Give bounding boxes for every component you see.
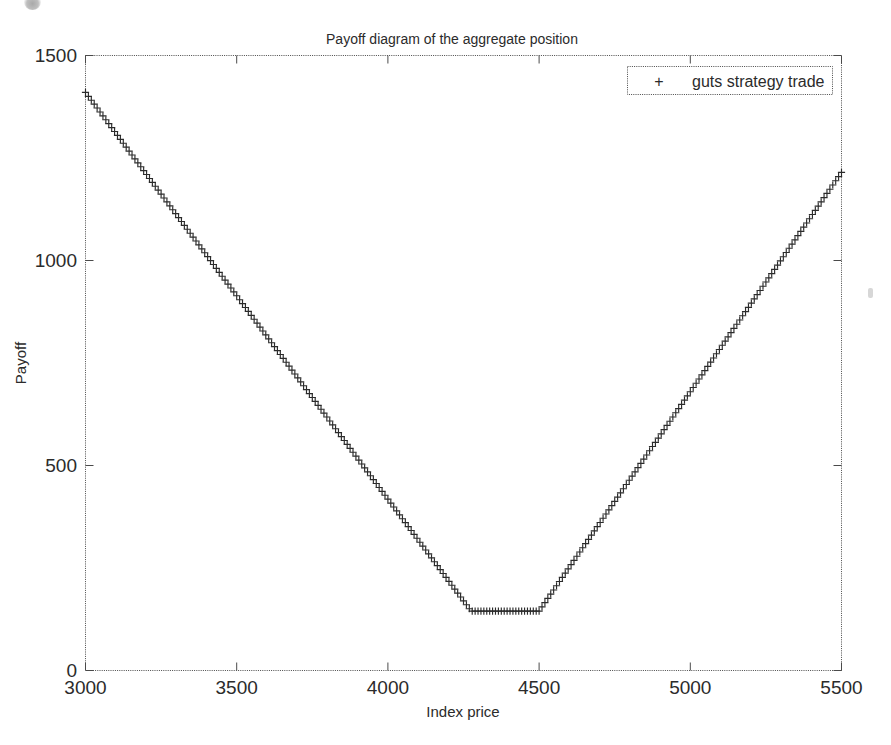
x-tick-label: 4000: [367, 677, 409, 698]
y-axis-ticks: [86, 56, 842, 671]
x-tick-labels: 3000 3500 4000 4500 5000 5500: [64, 677, 862, 698]
x-tick-label: 5000: [669, 677, 711, 698]
legend[interactable]: + guts strategy trade: [628, 67, 833, 95]
x-tick-label: 4500: [518, 677, 560, 698]
y-tick-label: 1000: [35, 250, 77, 271]
plot-border: [86, 56, 842, 671]
plus-marker-icon: +: [654, 73, 663, 90]
legend-item-label: guts strategy trade: [692, 73, 825, 90]
y-tick-label: 1500: [35, 45, 77, 66]
x-axis-title: Index price: [426, 703, 499, 720]
y-tick-label: 0: [66, 660, 77, 681]
x-axis-ticks: [86, 56, 842, 671]
plot-frame: [86, 56, 842, 671]
chart-canvas: 3000 3500 4000 4500 5000 5500 0 500 1000…: [0, 0, 891, 745]
x-tick-label: 3500: [216, 677, 258, 698]
y-tick-labels: 0 500 1000 1500: [35, 45, 77, 681]
y-axis-title: Payoff: [12, 341, 29, 384]
y-tick-label: 500: [45, 455, 77, 476]
x-tick-label: 5500: [820, 677, 862, 698]
chart-title: Payoff diagram of the aggregate position: [326, 31, 578, 47]
data-series-guts-strategy-trade: [82, 89, 845, 615]
payoff-chart-figure: 3000 3500 4000 4500 5000 5500 0 500 1000…: [0, 0, 891, 745]
